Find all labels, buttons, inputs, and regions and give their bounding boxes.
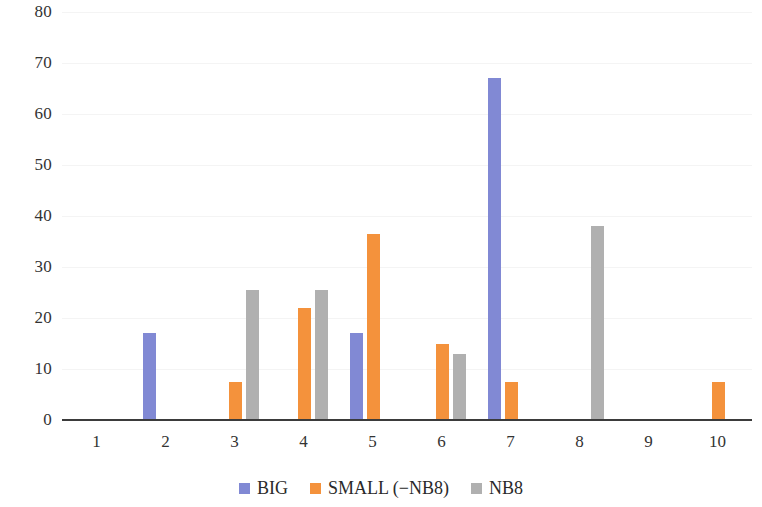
legend-item[interactable]: SMALL (−NB8) [310, 478, 449, 499]
bar-group [545, 12, 614, 420]
legend-label: NB8 [489, 478, 523, 499]
y-tick-label: 0 [43, 410, 52, 430]
legend-label: SMALL (−NB8) [328, 478, 449, 499]
bar [298, 308, 311, 420]
x-tick-label: 7 [506, 432, 515, 452]
legend-swatch-icon [310, 483, 321, 494]
bar [712, 382, 725, 420]
legend-item[interactable]: BIG [239, 478, 288, 499]
y-axis: 01020304050607080 [0, 0, 52, 432]
bar-group [407, 12, 476, 420]
bar [591, 226, 604, 420]
bar [315, 290, 328, 420]
bar [453, 354, 466, 420]
x-tick-label: 1 [92, 432, 101, 452]
bar [505, 382, 518, 420]
bar-group [200, 12, 269, 420]
x-tick-label: 2 [161, 432, 170, 452]
x-tick-label: 8 [575, 432, 584, 452]
bar-chart-figure: 01020304050607080 12345678910 BIGSMALL (… [0, 0, 762, 507]
bar-group [614, 12, 683, 420]
y-tick-label: 30 [35, 257, 52, 277]
x-tick-label: 9 [644, 432, 653, 452]
legend-item[interactable]: NB8 [471, 478, 523, 499]
plot-area [62, 12, 752, 420]
chart-legend: BIGSMALL (−NB8)NB8 [0, 478, 762, 499]
y-tick-label: 50 [35, 155, 52, 175]
bar-group [62, 12, 131, 420]
bar [143, 333, 156, 420]
x-tick-label: 6 [437, 432, 446, 452]
x-tick-label: 10 [709, 432, 726, 452]
x-axis: 12345678910 [62, 432, 752, 460]
bar [367, 234, 380, 420]
y-tick-label: 70 [35, 53, 52, 73]
y-tick-label: 60 [35, 104, 52, 124]
x-tick-label: 5 [368, 432, 377, 452]
legend-swatch-icon [239, 483, 250, 494]
bar-group [269, 12, 338, 420]
x-tick-label: 3 [230, 432, 239, 452]
x-axis-line [62, 419, 752, 421]
y-tick-label: 10 [35, 359, 52, 379]
legend-label: BIG [257, 478, 288, 499]
x-tick-label: 4 [299, 432, 308, 452]
bar [229, 382, 242, 420]
legend-swatch-icon [471, 483, 482, 494]
bar [246, 290, 259, 420]
y-tick-label: 80 [35, 2, 52, 22]
y-tick-label: 20 [35, 308, 52, 328]
bar [488, 78, 501, 420]
bar [350, 333, 363, 420]
bar-group [131, 12, 200, 420]
bar-group [338, 12, 407, 420]
bar [436, 344, 449, 421]
bar-group [683, 12, 752, 420]
y-tick-label: 40 [35, 206, 52, 226]
bar-group [476, 12, 545, 420]
